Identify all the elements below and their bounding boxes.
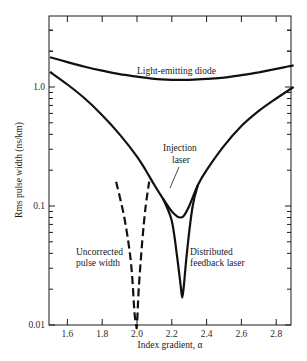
plot-frame [49,16,291,325]
x-tick-label: 1.6 [61,329,73,339]
x-tick-label: 2.8 [270,329,282,339]
series-group [50,57,294,328]
y-tick-label: 1.0 [33,82,45,92]
pulse-width-chart: 1.61.82.02.22.42.62.8 0.010.11.0 Light-e… [0,0,307,361]
y-tick-label: 0.01 [28,320,45,330]
x-tick-label: 2.4 [201,329,213,339]
x-axis-label: Index gradient, α [138,340,203,350]
injection-pointer [170,167,179,188]
x-axis-ticks: 1.61.82.02.22.42.62.8 [61,16,282,339]
y-tick-label: 0.1 [33,201,45,211]
injection-label-line1: Injection [163,143,197,153]
y-axis-label: Rms pulse width (ns/km) [14,122,25,218]
x-tick-label: 2.6 [235,329,247,339]
injection-label-line2: laser [172,155,191,165]
x-tick-label: 1.8 [96,329,108,339]
dfb-label-line2: feedback laser [190,258,245,268]
x-tick-label: 2.0 [131,329,143,339]
distributed-feedback-laser-curve [163,185,198,298]
dfb-label-line1: Distributed [190,247,233,257]
uncorrected-label-line1: Uncorrected [76,247,123,257]
led-label: Light-emitting diode [137,66,216,76]
x-tick-label: 2.2 [166,329,178,339]
uncorrected-label-line2: pulse width [76,258,120,268]
